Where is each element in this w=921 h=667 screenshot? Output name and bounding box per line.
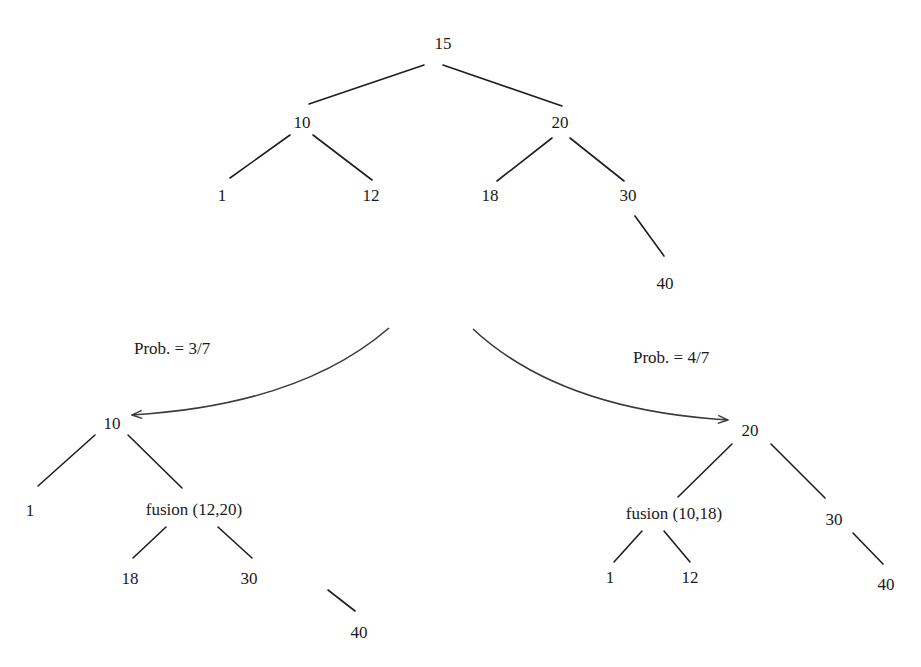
right-tree-edge <box>614 531 642 562</box>
left-tree-edge <box>328 590 355 611</box>
left-tree-edge <box>218 527 252 558</box>
probability-label-right: Prob. = 4/7 <box>633 349 709 366</box>
left-tree-edge <box>38 435 95 486</box>
right_tree-node-r40: 40 <box>878 576 895 593</box>
left-tree-edge <box>133 527 166 558</box>
left_tree-node-lf: fusion (12,20) <box>146 501 242 518</box>
left_tree-node-l40: 40 <box>351 624 368 641</box>
top_tree-node-t15: 15 <box>435 35 452 52</box>
tree-edges-layer <box>0 0 921 667</box>
top_tree-node-t18: 18 <box>482 187 499 204</box>
right_tree-node-r30: 30 <box>826 511 843 528</box>
right-tree-edge <box>771 444 825 498</box>
left_tree-node-l10: 10 <box>104 415 121 432</box>
top_tree-node-t12: 12 <box>363 187 380 204</box>
right_tree-node-r12: 12 <box>682 569 699 586</box>
diagram-canvas: 151020112183040101fusion (12,20)18304020… <box>0 0 921 667</box>
right_tree-node-r20: 20 <box>742 422 759 439</box>
left_tree-node-l18: 18 <box>122 570 139 587</box>
top-tree-edge <box>635 216 664 256</box>
top-tree-edge <box>309 65 424 104</box>
top_tree-node-t30: 30 <box>620 187 637 204</box>
right_tree-node-r1: 1 <box>606 569 615 586</box>
right-tree-edge <box>664 531 690 562</box>
right_tree-node-rf: fusion (10,18) <box>626 505 722 522</box>
top_tree-node-t40: 40 <box>657 275 674 292</box>
top-tree-edge <box>497 138 552 181</box>
top-tree-edge <box>443 65 562 106</box>
top-tree-edge <box>313 135 372 180</box>
probability-label-left: Prob. = 3/7 <box>134 340 210 357</box>
top_tree-node-t10: 10 <box>294 114 311 131</box>
right-tree-edge <box>678 444 732 497</box>
top-tree-edge <box>230 135 290 178</box>
top_tree-node-t1: 1 <box>218 187 227 204</box>
left_tree-node-l30: 30 <box>241 570 258 587</box>
top-tree-edge <box>570 138 624 181</box>
right-tree-edge <box>853 533 883 564</box>
top_tree-node-t20: 20 <box>552 114 569 131</box>
transition-arrow-right <box>473 329 728 420</box>
left-tree-edge <box>128 435 182 488</box>
left_tree-node-l1: 1 <box>26 502 35 519</box>
